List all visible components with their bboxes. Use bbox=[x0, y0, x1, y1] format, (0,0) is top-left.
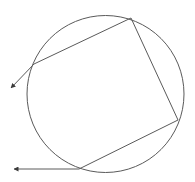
diagram-canvas bbox=[0, 0, 195, 182]
ray-path bbox=[34, 18, 178, 169]
arrow-icon bbox=[11, 64, 34, 88]
circle bbox=[27, 16, 184, 173]
reflection-diagram bbox=[0, 0, 195, 182]
